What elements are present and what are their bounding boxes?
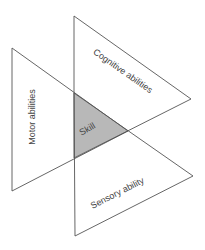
motor-label: Motor abilities bbox=[27, 89, 37, 145]
skill-triangle-diagram: Cognitive abilities Motor abilities Skil… bbox=[0, 0, 205, 250]
